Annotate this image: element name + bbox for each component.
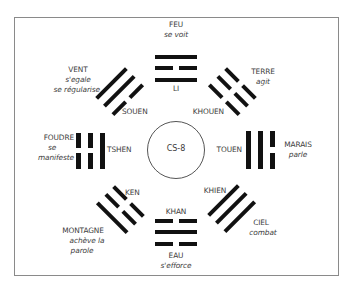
trigram-name-li: LI xyxy=(156,84,196,93)
trigram-name-touen: TOUEN xyxy=(212,145,242,154)
center-circle: CS-8 xyxy=(147,121,205,179)
verb-label-foudre-1: se xyxy=(30,143,74,152)
trigram-khan xyxy=(155,219,197,249)
center-label: CS-8 xyxy=(148,144,204,153)
verb-label-montagne-2: parole xyxy=(62,246,102,255)
trigram-name-tshen: TSHEN xyxy=(107,145,137,154)
element-label-eau: EAU xyxy=(156,251,196,260)
verb-label-ciel: combat xyxy=(246,228,280,237)
trigram-li xyxy=(155,55,197,85)
verb-label-foudre-2: manifeste xyxy=(30,153,74,162)
element-label-ciel: CIEL xyxy=(246,218,276,227)
element-label-terre: TERRE xyxy=(248,67,278,76)
trigram-touen xyxy=(246,131,276,169)
verb-label-montagne-1: achève la xyxy=(62,236,112,245)
trigram-name-khan: KHAN xyxy=(156,207,196,216)
verb-label-eau: s'efforce xyxy=(146,261,206,270)
element-label-marais: MARAIS xyxy=(278,140,318,149)
element-label-feu: FEU xyxy=(156,20,196,29)
element-label-foudre: FOUDRE xyxy=(30,133,74,142)
verb-label-feu: se voit xyxy=(146,30,206,39)
element-label-montagne: MONTAGNE xyxy=(58,226,108,235)
verb-label-marais: parle xyxy=(278,150,318,159)
trigram-name-khouen: KHOUEN xyxy=(188,107,224,116)
trigram-tshen xyxy=(76,133,106,171)
trigram-name-souen: SOUEN xyxy=(122,107,152,116)
element-label-vent: VENT xyxy=(48,65,108,74)
